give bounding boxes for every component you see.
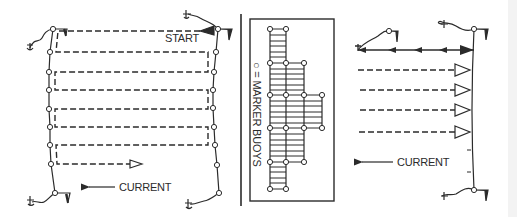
survey-pattern-diagram: START CURRENT ○ = MARKER BUOYS CURRENT [0,0,517,217]
filled-arrow-icon [460,45,474,55]
left-panel [27,10,232,209]
survey-path [55,31,208,164]
right-panel [355,20,488,201]
current-label-left: CURRENT [119,181,171,193]
dashed-survey-lines [358,70,455,132]
legend-label: ○ = MARKER BUOYS [251,62,263,167]
start-label: START [165,32,199,44]
anchor-icon [441,188,474,200]
current-label-right: CURRENT [397,156,449,168]
edge-shade [508,0,517,217]
anchor-icon [438,20,474,30]
anchor-icon [185,193,219,209]
curved-buoy-line [472,29,474,190]
end-arrow-icon [130,160,142,168]
anchor-icon [27,193,55,206]
anchor-icon [27,29,53,50]
start-arrow-icon [200,26,214,35]
